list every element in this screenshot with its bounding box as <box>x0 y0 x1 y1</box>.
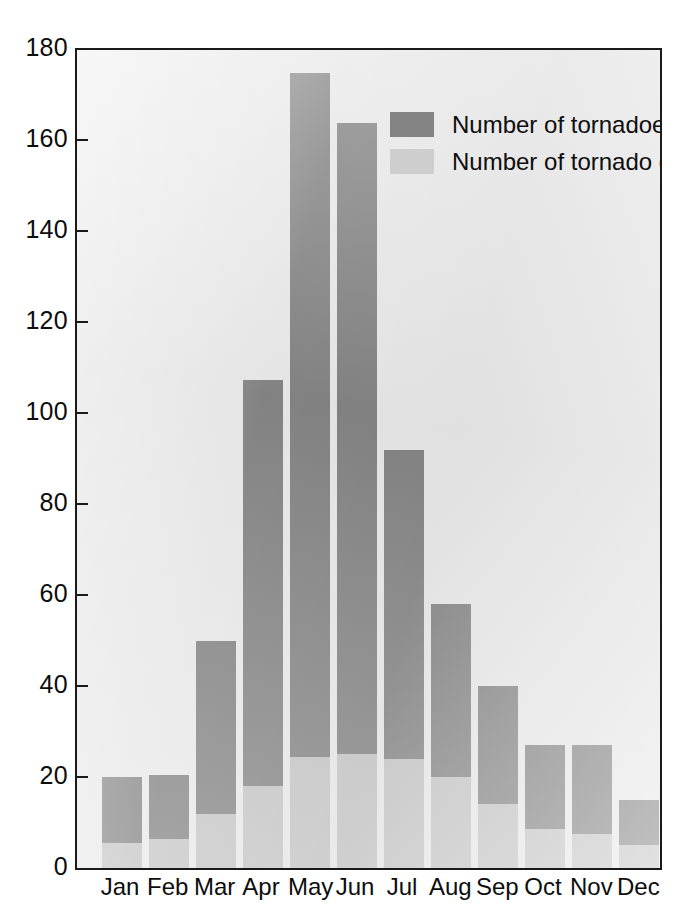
bar-dec-tornado-days <box>619 845 659 868</box>
chart-legend: Number of tornadoes Number of tornado da… <box>390 112 662 186</box>
legend-item-tornado-days: Number of tornado days <box>390 149 662 174</box>
legend-label-tornadoes: Number of tornadoes <box>452 112 662 137</box>
y-tick-label-80: 80 <box>6 490 68 515</box>
y-tick-label-180: 180 <box>6 35 68 60</box>
y-tick-mark-40 <box>77 685 88 687</box>
bar-may-tornado-days <box>290 757 330 868</box>
y-tick-label-160: 160 <box>6 126 68 151</box>
y-tick-mark-60 <box>77 594 88 596</box>
bar-oct-tornado-days <box>525 829 565 868</box>
bar-jul-tornado-days <box>384 759 424 868</box>
legend-item-tornadoes: Number of tornadoes <box>390 112 662 137</box>
y-tick-mark-160 <box>77 139 88 141</box>
bar-group-feb <box>149 50 189 868</box>
x-tick-label-apr: Apr <box>241 874 281 900</box>
y-tick-label-140: 140 <box>6 217 68 242</box>
y-tick-label-40: 40 <box>6 672 68 697</box>
x-tick-label-sep: Sep <box>476 874 516 900</box>
bar-group-may <box>290 50 330 868</box>
legend-label-tornado-days: Number of tornado days <box>452 149 662 174</box>
x-tick-label-may: May <box>288 874 328 900</box>
y-tick-mark-120 <box>77 321 88 323</box>
legend-swatch-tornado-days-icon <box>390 149 434 174</box>
y-tick-mark-140 <box>77 230 88 232</box>
bar-group-apr <box>243 50 283 868</box>
y-tick-label-60: 60 <box>6 581 68 606</box>
y-tick-label-0: 0 <box>6 854 68 879</box>
bar-jan-tornado-days <box>102 843 142 868</box>
bar-nov-tornado-days <box>572 834 612 868</box>
x-tick-label-jan: Jan <box>100 874 140 900</box>
legend-swatch-tornadoes-icon <box>390 112 434 137</box>
x-tick-label-aug: Aug <box>429 874 469 900</box>
x-tick-label-dec: Dec <box>617 874 657 900</box>
y-tick-label-20: 20 <box>6 763 68 788</box>
x-tick-label-mar: Mar <box>194 874 234 900</box>
y-axis: 180 160 140 120 100 80 60 40 20 0 <box>0 0 68 921</box>
tornado-monthly-bar-chart: 180 160 140 120 100 80 60 40 20 0 <box>0 0 679 921</box>
bar-group-jan <box>102 50 142 868</box>
bar-sep-tornado-days <box>478 804 518 868</box>
bar-group-jun <box>337 50 377 868</box>
bar-may-tornadoes <box>290 73 330 868</box>
y-tick-mark-80 <box>77 503 88 505</box>
y-tick-label-100: 100 <box>6 399 68 424</box>
bar-feb-tornado-days <box>149 839 189 869</box>
bar-jun-tornado-days <box>337 754 377 868</box>
y-tick-mark-20 <box>77 776 88 778</box>
y-tick-label-120: 120 <box>6 308 68 333</box>
y-tick-mark-100 <box>77 412 88 414</box>
x-tick-label-jun: Jun <box>335 874 375 900</box>
bar-mar-tornado-days <box>196 814 236 869</box>
x-tick-label-nov: Nov <box>570 874 610 900</box>
x-tick-label-jul: Jul <box>382 874 422 900</box>
x-tick-label-oct: Oct <box>523 874 563 900</box>
plot-area: Number of tornadoes Number of tornado da… <box>75 48 662 870</box>
bar-apr-tornado-days <box>243 786 283 868</box>
bar-aug-tornado-days <box>431 777 471 868</box>
bar-group-mar <box>196 50 236 868</box>
x-tick-label-feb: Feb <box>147 874 187 900</box>
